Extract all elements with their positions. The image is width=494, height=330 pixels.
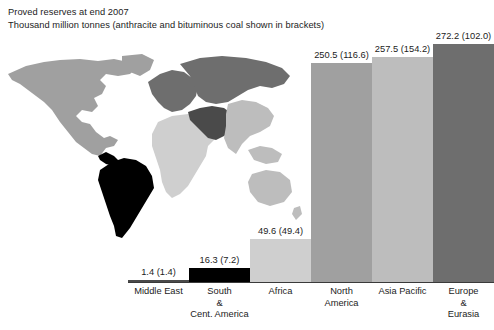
category-label-africa: Africa — [250, 286, 311, 321]
bar-africa-rect[interactable] — [250, 239, 311, 282]
bar-south-and-cent-america-rect[interactable] — [189, 268, 250, 282]
category-label-line: Africa — [269, 286, 293, 296]
chart-title: Proved reserves at end 2007 — [8, 6, 438, 19]
category-label-line: Europe — [449, 286, 479, 296]
bars-row: 1.4 (1.4)16.3 (7.2)49.6 (49.4)250.5 (116… — [128, 20, 494, 282]
bar-europe-and-eurasia-rect[interactable] — [433, 44, 494, 282]
category-label-line: America — [311, 298, 372, 310]
category-label-line: Cent. America — [189, 309, 250, 321]
category-label-line: & — [433, 298, 494, 310]
category-label-middle-east: Middle East — [128, 286, 189, 321]
category-label-south-and-cent-america: South&Cent. America — [189, 286, 250, 321]
bar-value-label: 272.2 (102.0) — [409, 31, 494, 42]
category-label-line: North — [330, 286, 353, 296]
category-label-asia-pacific: Asia Pacific — [372, 286, 433, 321]
map-region-north-america — [8, 59, 136, 156]
category-label-line: Middle East — [134, 286, 183, 296]
category-label-line: South — [207, 286, 231, 296]
category-label-line: Eurasia — [433, 309, 494, 321]
bar-south-and-cent-america[interactable]: 16.3 (7.2) — [189, 20, 250, 282]
bar-asia-pacific-rect[interactable] — [372, 57, 433, 282]
category-label-north-america: NorthAmerica — [311, 286, 372, 321]
bar-north-america-rect[interactable] — [311, 63, 372, 282]
category-label-line: Asia Pacific — [378, 286, 426, 296]
bar-middle-east[interactable]: 1.4 (1.4) — [128, 20, 189, 282]
bar-chart: 1.4 (1.4)16.3 (7.2)49.6 (49.4)250.5 (116… — [128, 20, 494, 330]
bar-asia-pacific[interactable]: 257.5 (154.2) — [372, 20, 433, 282]
chart-baseline — [128, 282, 494, 283]
bar-north-america[interactable]: 250.5 (116.6) — [311, 20, 372, 282]
bar-europe-and-eurasia[interactable]: 272.2 (102.0) — [433, 20, 494, 282]
category-labels-row: Middle EastSouth&Cent. AmericaAfricaNort… — [128, 286, 494, 321]
category-label-line: & — [189, 298, 250, 310]
category-label-europe-and-eurasia: Europe&Eurasia — [433, 286, 494, 321]
